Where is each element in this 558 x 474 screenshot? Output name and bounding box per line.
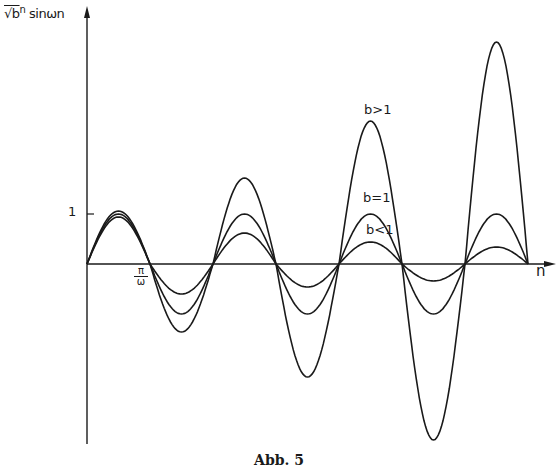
curves xyxy=(87,42,528,440)
legend-b-less-1: b<1 xyxy=(366,222,393,237)
x-tick-label-pi-over-omega: πω xyxy=(134,266,148,287)
legend-b-greater-1: b>1 xyxy=(364,102,391,117)
y-label-exponent: n xyxy=(20,4,26,15)
legend-b-equal-1: b=1 xyxy=(363,190,390,205)
curve-b-less-1 xyxy=(87,217,528,294)
x-axis-arrow-icon xyxy=(544,261,556,267)
y-label-rest: sinωn xyxy=(29,6,64,21)
chart-plot-area xyxy=(0,0,558,474)
figure-caption: Abb. 5 xyxy=(0,452,558,468)
y-tick-label-1: 1 xyxy=(68,204,76,219)
x-axis-label: n xyxy=(536,262,546,280)
y-axis-arrow-icon xyxy=(84,6,90,18)
y-axis-label: √bn sinωn xyxy=(4,4,64,21)
pi-denominator: ω xyxy=(137,276,145,287)
y-label-radical: √b xyxy=(4,6,20,21)
axes xyxy=(84,6,556,444)
curve-b-greater-1 xyxy=(87,42,528,440)
